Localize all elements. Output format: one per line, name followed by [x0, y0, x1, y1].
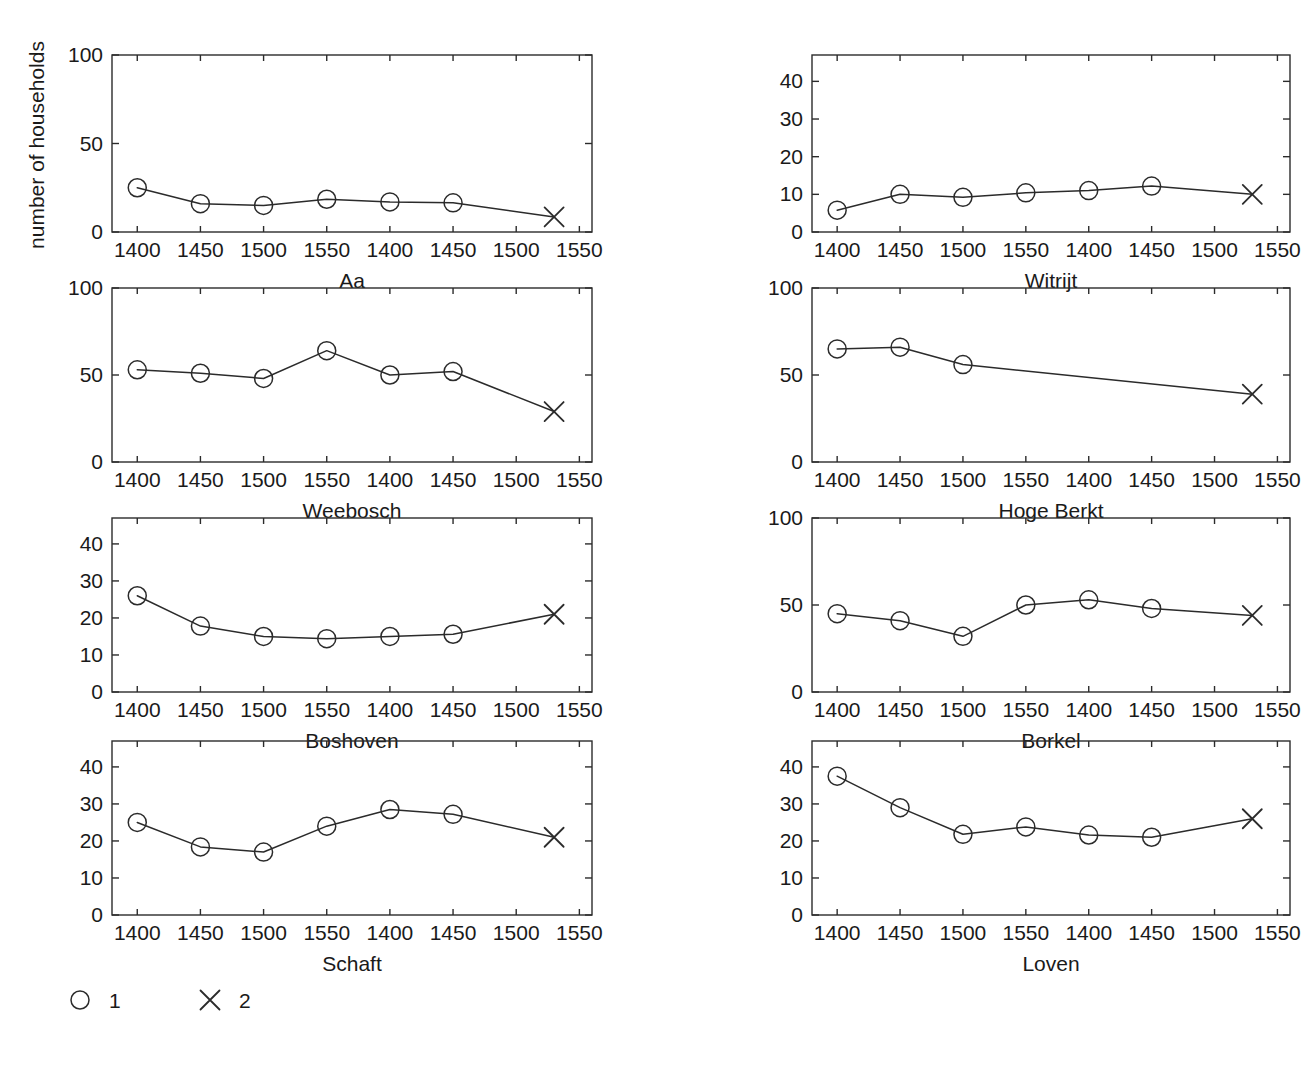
x-tick-label: 1450: [877, 238, 924, 261]
y-tick-label: 20: [780, 829, 803, 852]
y-tick-label: 0: [91, 680, 103, 703]
x-tick-label: 1450: [1128, 921, 1175, 944]
x-tick-label: 1500: [940, 698, 987, 721]
x-tick-label: 1400: [1065, 698, 1112, 721]
y-tick-label: 30: [80, 569, 103, 592]
y-tick-label: 50: [80, 132, 103, 155]
x-tick-label: 1450: [877, 698, 924, 721]
y-tick-label: 0: [791, 450, 803, 473]
x-tick-label: 1550: [556, 238, 603, 261]
x-tick-label: 1550: [1254, 468, 1301, 491]
x-tick-label: 1400: [114, 468, 161, 491]
x-tick-label: 1450: [177, 468, 224, 491]
x-tick-label: 1450: [430, 921, 477, 944]
x-tick-label: 1550: [1002, 698, 1049, 721]
y-tick-label: 0: [791, 220, 803, 243]
x-tick-label: 1400: [114, 921, 161, 944]
x-tick-label: 1500: [1191, 468, 1238, 491]
x-tick-label: 1500: [1191, 698, 1238, 721]
x-tick-label: 1400: [1065, 468, 1112, 491]
x-tick-label: 1450: [177, 698, 224, 721]
x-tick-label: 1500: [940, 238, 987, 261]
x-tick-label: 1550: [303, 468, 350, 491]
x-tick-label: 1450: [177, 238, 224, 261]
x-tick-label: 1400: [1065, 238, 1112, 261]
y-tick-label: 0: [791, 680, 803, 703]
x-tick-label: 1400: [367, 921, 414, 944]
y-tick-label: 20: [80, 606, 103, 629]
y-tick-label: 10: [80, 866, 103, 889]
x-tick-label: 1400: [814, 921, 861, 944]
x-tick-label: 1450: [430, 698, 477, 721]
y-tick-label: 0: [91, 220, 103, 243]
figure-root: 14001450150015501400145015001550050100Aa…: [0, 0, 1314, 1065]
y-tick-label: 50: [780, 363, 803, 386]
y-tick-label: 50: [780, 593, 803, 616]
y-tick-label: 0: [791, 903, 803, 926]
x-tick-label: 1500: [240, 698, 287, 721]
x-tick-label: 1400: [1065, 921, 1112, 944]
x-tick-label: 1450: [1128, 238, 1175, 261]
y-axis-label: number of households: [25, 41, 48, 249]
x-tick-label: 1550: [556, 921, 603, 944]
panel-title: Loven: [1022, 952, 1079, 975]
multi-panel-line-chart: 14001450150015501400145015001550050100Aa…: [0, 0, 1314, 1065]
x-tick-label: 1550: [1254, 921, 1301, 944]
x-tick-label: 1400: [367, 468, 414, 491]
x-tick-label: 1400: [814, 698, 861, 721]
x-tick-label: 1550: [556, 468, 603, 491]
x-tick-label: 1500: [240, 238, 287, 261]
y-tick-label: 40: [780, 755, 803, 778]
x-tick-label: 1450: [877, 921, 924, 944]
x-tick-label: 1550: [1002, 468, 1049, 491]
legend-label: 2: [239, 989, 251, 1012]
x-tick-label: 1550: [1254, 238, 1301, 261]
y-tick-label: 20: [80, 829, 103, 852]
x-tick-label: 1550: [1002, 238, 1049, 261]
x-tick-label: 1450: [430, 468, 477, 491]
x-tick-label: 1550: [1002, 921, 1049, 944]
x-tick-label: 1500: [240, 921, 287, 944]
x-tick-label: 1500: [493, 698, 540, 721]
x-tick-label: 1400: [114, 238, 161, 261]
x-tick-label: 1500: [1191, 238, 1238, 261]
x-tick-label: 1550: [1254, 698, 1301, 721]
y-tick-label: 30: [780, 792, 803, 815]
y-tick-label: 0: [91, 450, 103, 473]
y-tick-label: 20: [780, 145, 803, 168]
y-tick-label: 10: [80, 643, 103, 666]
y-tick-label: 30: [80, 792, 103, 815]
x-tick-label: 1500: [940, 921, 987, 944]
x-tick-label: 1500: [493, 468, 540, 491]
y-tick-label: 100: [68, 276, 103, 299]
figure-background: [0, 0, 1314, 1065]
x-tick-label: 1400: [367, 238, 414, 261]
panel-title: Schaft: [322, 952, 382, 975]
x-tick-label: 1550: [556, 698, 603, 721]
x-tick-label: 1450: [1128, 468, 1175, 491]
x-tick-label: 1550: [303, 921, 350, 944]
y-tick-label: 100: [768, 276, 803, 299]
y-tick-label: 10: [780, 866, 803, 889]
x-tick-label: 1400: [367, 698, 414, 721]
y-tick-label: 0: [91, 903, 103, 926]
x-tick-label: 1550: [303, 238, 350, 261]
y-axis-label-group: number of households: [25, 41, 48, 249]
x-tick-label: 1450: [1128, 698, 1175, 721]
x-tick-label: 1400: [814, 468, 861, 491]
y-tick-label: 100: [768, 506, 803, 529]
y-tick-label: 40: [80, 532, 103, 555]
x-tick-label: 1500: [493, 921, 540, 944]
x-tick-label: 1400: [114, 698, 161, 721]
y-tick-label: 10: [780, 182, 803, 205]
legend-label: 1: [109, 989, 121, 1012]
y-tick-label: 50: [80, 363, 103, 386]
x-tick-label: 1400: [814, 238, 861, 261]
x-tick-label: 1450: [430, 238, 477, 261]
y-tick-label: 40: [780, 69, 803, 92]
y-tick-label: 100: [68, 43, 103, 66]
x-tick-label: 1500: [240, 468, 287, 491]
y-tick-label: 30: [780, 107, 803, 130]
x-tick-label: 1500: [1191, 921, 1238, 944]
x-tick-label: 1550: [303, 698, 350, 721]
